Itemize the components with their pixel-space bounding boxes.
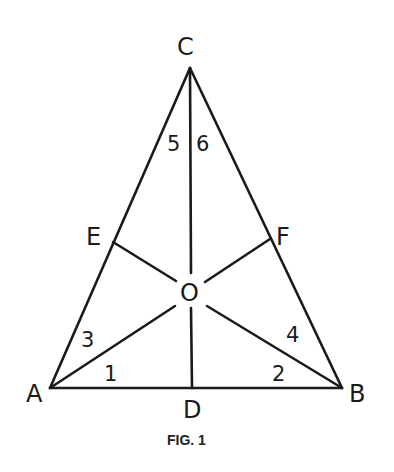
label-o: O bbox=[180, 279, 199, 307]
segment-cd-lower bbox=[191, 308, 192, 388]
triangle-diagram: C A B D E F O 1 2 3 4 5 6 FIG. 1 bbox=[0, 0, 394, 472]
angle-5: 5 bbox=[167, 132, 180, 156]
label-c: C bbox=[177, 33, 194, 61]
label-b: B bbox=[349, 380, 365, 408]
angle-2: 2 bbox=[272, 362, 285, 386]
angle-1: 1 bbox=[104, 362, 117, 386]
label-e: E bbox=[86, 223, 101, 251]
figure-caption: FIG. 1 bbox=[167, 432, 206, 448]
angle-6: 6 bbox=[196, 132, 209, 156]
segment-oe bbox=[113, 242, 176, 281]
side-ac bbox=[50, 68, 190, 388]
angle-4: 4 bbox=[286, 323, 299, 347]
label-d: D bbox=[183, 396, 201, 424]
label-f: F bbox=[276, 223, 290, 251]
segment-of bbox=[205, 239, 270, 282]
segment-cd-upper bbox=[190, 68, 191, 273]
label-a: A bbox=[26, 380, 43, 408]
angle-3: 3 bbox=[81, 328, 94, 352]
side-bc bbox=[190, 68, 342, 388]
